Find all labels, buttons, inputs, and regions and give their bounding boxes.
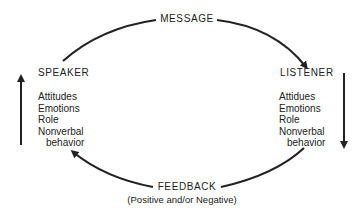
speaker-attr-role: Role	[38, 114, 84, 126]
listener-label: LISTENER	[280, 67, 334, 79]
speaker-attr-attitudes: Attitudes	[38, 91, 84, 103]
feedback-label: FEEDBACK	[158, 181, 217, 193]
listener-attr-behavior: behavior	[279, 137, 325, 149]
speaker-label: SPEAKER	[38, 67, 89, 79]
speaker-attr-nonverbal: Nonverbal	[38, 126, 84, 138]
speaker-attr-emotions: Emotions	[38, 103, 84, 115]
listener-attr-role: Role	[279, 114, 325, 126]
speaker-attributes: Attitudes Emotions Role Nonverbal behavi…	[38, 91, 84, 149]
listener-attributes: Attidues Emotions Role Nonverbal behavio…	[279, 91, 325, 149]
message-label: MESSAGE	[160, 13, 214, 25]
feedback-arc-left	[73, 152, 153, 187]
message-arc-right	[217, 20, 306, 67]
listener-attr-attitudes: Attidues	[279, 91, 325, 103]
message-arc-left	[63, 20, 156, 61]
listener-attr-emotions: Emotions	[279, 103, 325, 115]
speaker-attr-behavior: behavior	[38, 137, 84, 149]
listener-attr-nonverbal: Nonverbal	[279, 126, 325, 138]
feedback-arc-right	[221, 148, 304, 187]
feedback-subtitle: (Positive and/or Negative)	[127, 194, 236, 205]
